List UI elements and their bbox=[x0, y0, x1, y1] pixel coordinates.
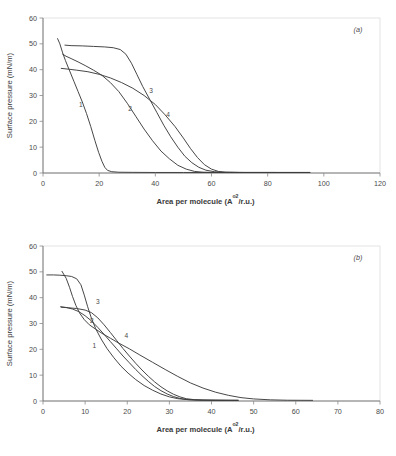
y-tick-label: 20 bbox=[29, 117, 37, 126]
x-tick-label: 60 bbox=[292, 407, 300, 416]
y-tick-label: 40 bbox=[29, 65, 37, 74]
x-tick-label: 10 bbox=[81, 407, 89, 416]
figure-container: 02040608010012001020304050601234Area per… bbox=[0, 0, 396, 456]
curve-label-4: 4 bbox=[125, 332, 129, 339]
curve-2 bbox=[61, 307, 238, 400]
y-tick-label: 50 bbox=[29, 267, 37, 276]
x-tick-label: 20 bbox=[123, 407, 131, 416]
curve-label-1: 1 bbox=[79, 101, 83, 108]
y-tick-label: 20 bbox=[29, 345, 37, 354]
plot-area-b: 0102030405060708001020304050601234Area p… bbox=[0, 228, 396, 456]
y-tick-label: 0 bbox=[33, 169, 37, 178]
y-tick-label: 50 bbox=[29, 39, 37, 48]
y-axis-title: Surface pressure (mN/m) bbox=[5, 280, 14, 366]
y-tick-label: 60 bbox=[29, 14, 37, 23]
chart-panel-b: 0102030405060708001020304050601234Area p… bbox=[0, 228, 396, 456]
y-axis-title: Surface pressure (mN/m) bbox=[5, 52, 14, 138]
curve-1 bbox=[61, 307, 238, 401]
x-tick-label: 40 bbox=[208, 407, 216, 416]
x-tick-label: 120 bbox=[374, 179, 386, 188]
x-tick-label: 30 bbox=[165, 407, 173, 416]
y-tick-label: 0 bbox=[33, 397, 37, 406]
x-axis-title: Area per molecule (Ao2/r.u.) bbox=[156, 421, 255, 434]
y-tick-label: 60 bbox=[29, 242, 37, 251]
curve-label-3: 3 bbox=[149, 87, 153, 94]
y-tick-label: 30 bbox=[29, 91, 37, 100]
x-tick-label: 20 bbox=[95, 179, 103, 188]
curve-label-4: 4 bbox=[166, 111, 170, 118]
x-tick-label: 80 bbox=[264, 179, 272, 188]
panel-label: (b) bbox=[354, 253, 363, 262]
x-tick-label: 40 bbox=[151, 179, 159, 188]
curve-label-3: 3 bbox=[96, 298, 100, 305]
y-tick-label: 30 bbox=[29, 319, 37, 328]
curve-3 bbox=[47, 275, 238, 400]
plot-area-a: 02040608010012001020304050601234Area per… bbox=[0, 0, 396, 228]
y-tick-label: 10 bbox=[29, 371, 37, 380]
x-tick-label: 0 bbox=[41, 179, 45, 188]
x-tick-label: 60 bbox=[208, 179, 216, 188]
x-tick-label: 0 bbox=[41, 407, 45, 416]
x-axis-title: Area per molecule (Ao2/r.u.) bbox=[156, 193, 255, 206]
curve-3 bbox=[65, 45, 310, 172]
curve-1 bbox=[58, 39, 310, 173]
chart-panel-a: 02040608010012001020304050601234Area per… bbox=[0, 0, 396, 228]
curve-label-1: 1 bbox=[93, 342, 97, 349]
y-tick-label: 10 bbox=[29, 143, 37, 152]
plot-frame bbox=[43, 18, 380, 173]
x-tick-label: 100 bbox=[318, 179, 330, 188]
curve-label-2: 2 bbox=[128, 105, 132, 112]
y-tick-label: 40 bbox=[29, 293, 37, 302]
panel-label: (a) bbox=[354, 25, 363, 34]
x-tick-label: 70 bbox=[334, 407, 342, 416]
x-tick-label: 80 bbox=[376, 407, 384, 416]
x-tick-label: 50 bbox=[250, 407, 258, 416]
